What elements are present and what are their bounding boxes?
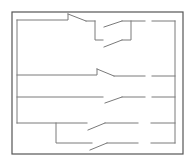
rung-3-no-contact-icon — [105, 97, 122, 103]
rung-5-no-contact-icon — [90, 143, 107, 150]
rung-3 — [17, 97, 175, 103]
ladder-diagram — [0, 0, 193, 167]
rung-1-no-contact-a-icon — [104, 21, 122, 27]
rung-5-wire-in — [56, 123, 92, 143]
rung-4 — [17, 123, 175, 130]
circuit-svg — [0, 0, 193, 167]
rung-1-branch-left — [95, 21, 103, 40]
rung-5 — [56, 123, 175, 150]
rung-1-branch-right — [122, 21, 131, 40]
rung-1-wire-in — [17, 14, 68, 20]
rung-2 — [17, 69, 175, 76]
rung-2-nc-contact-icon — [97, 69, 114, 76]
rung-1-no-contact-b-icon — [104, 40, 122, 47]
rung-2-wire-in — [17, 69, 97, 75]
rung-1-nc-contact-icon — [68, 14, 86, 21]
rung-1 — [17, 14, 175, 47]
rung-4-no-contact-icon — [88, 123, 105, 130]
diagram-frame — [12, 12, 183, 154]
